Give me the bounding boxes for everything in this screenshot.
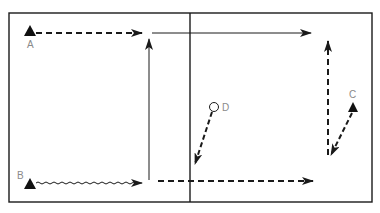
player-b-label: B — [17, 170, 24, 181]
player-c-label: C — [349, 89, 356, 100]
player-a-triangle-icon — [24, 25, 36, 36]
player-c-triangle-icon — [348, 102, 358, 112]
player-a-label: A — [27, 39, 34, 50]
path-d-dashed-arrow — [195, 112, 212, 164]
path-b-dribble-arrow — [36, 182, 142, 184]
player-d-label: D — [222, 102, 229, 113]
play-diagram: A B C D — [0, 0, 380, 213]
path-c-dashed-arrow — [331, 113, 352, 155]
player-d-circle-icon — [210, 103, 219, 112]
player-b-triangle-icon — [24, 178, 36, 189]
